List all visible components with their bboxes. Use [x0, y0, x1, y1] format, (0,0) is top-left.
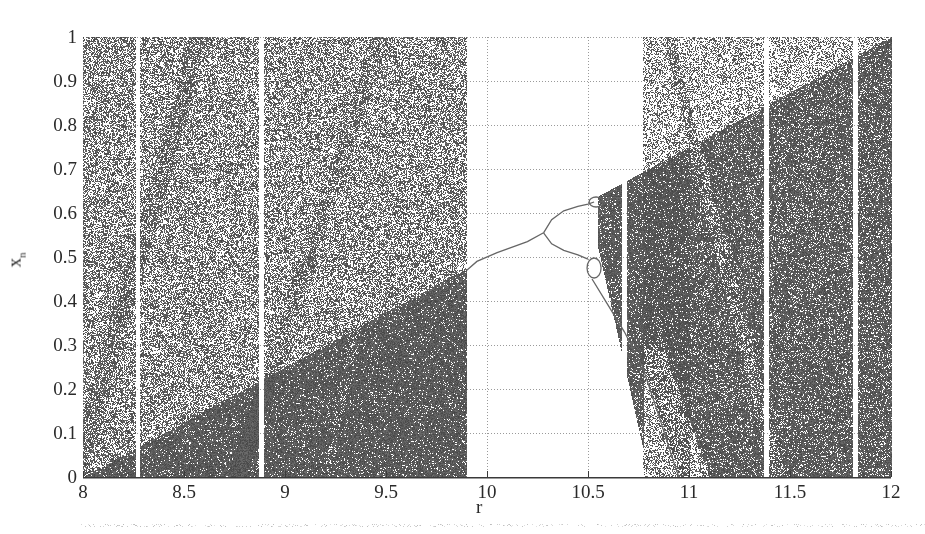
- x-tick-label: 8: [53, 482, 113, 502]
- x-axis-label: r: [476, 496, 482, 518]
- y-tick-label: 0.5: [27, 247, 77, 267]
- x-tick-label: 11: [659, 482, 719, 502]
- y-axis-label: xn: [4, 252, 28, 267]
- y-tick-label: 0.2: [27, 379, 77, 399]
- x-tick-label: 12: [861, 482, 921, 502]
- x-tick-label: 8.5: [154, 482, 214, 502]
- bifurcation-figure: 00.10.20.30.40.50.60.70.80.91 88.599.510…: [0, 0, 925, 534]
- y-tick-label: 0.8: [27, 115, 77, 135]
- y-tick-label: 0.6: [27, 203, 77, 223]
- y-tick-label: 0.7: [27, 159, 77, 179]
- y-tick-label: 0.9: [27, 71, 77, 91]
- plot-area: [0, 0, 925, 534]
- x-tick-label: 10: [457, 482, 517, 502]
- x-tick-label: 9.5: [356, 482, 416, 502]
- x-tick-label: 11.5: [760, 482, 820, 502]
- y-tick-label: 0.3: [27, 335, 77, 355]
- y-tick-label: 0.4: [27, 291, 77, 311]
- y-tick-label: 0.1: [27, 423, 77, 443]
- y-tick-label: 1: [27, 27, 77, 47]
- x-tick-label: 10.5: [558, 482, 618, 502]
- scan-artifact-strip: [80, 524, 925, 527]
- x-tick-label: 9: [255, 482, 315, 502]
